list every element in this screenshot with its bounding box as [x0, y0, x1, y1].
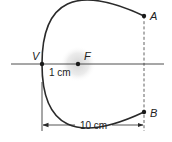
point-a-label: A	[149, 10, 157, 22]
vertex-label: V	[32, 50, 41, 62]
point-b-label: B	[150, 107, 157, 119]
point-b	[142, 110, 146, 114]
focal-distance-label: 1 cm	[49, 67, 71, 78]
depth-label: 10 cm	[80, 120, 107, 131]
parabola-diagram: 10 cm V F A B 1 cm	[0, 0, 172, 142]
point-a	[142, 14, 146, 18]
focus-point	[76, 62, 80, 66]
vertex-point	[40, 62, 44, 66]
